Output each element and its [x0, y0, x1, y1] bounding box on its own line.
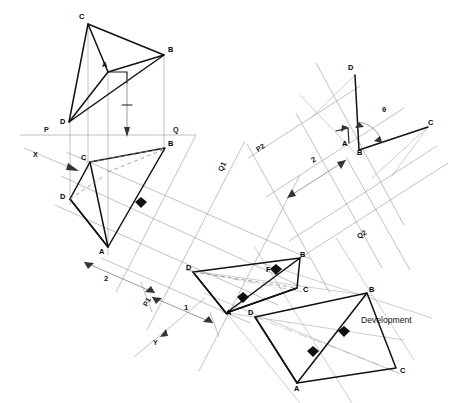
dimension-labels: 2 1 2 [104, 155, 318, 312]
aux-view-edge-da [193, 272, 226, 313]
rail-q1-c [55, 205, 278, 305]
edge-marker-top-view [135, 197, 147, 208]
dim-arrow-2-right-end [337, 160, 346, 169]
angle-theta-label: θ [382, 105, 386, 114]
label-dev-d: D [248, 308, 254, 317]
front-view-edges-cdb [69, 24, 164, 122]
development-edge-da [255, 317, 297, 383]
axis-x-arrowhead [66, 163, 79, 171]
label-p: P [44, 125, 49, 134]
line-q2 [346, 157, 410, 270]
auxiliary-view [193, 258, 300, 313]
feeler-angle-3 [392, 127, 428, 176]
dim-arrow-2-right-start [287, 189, 296, 198]
label-aux-b: B [300, 250, 305, 259]
angle-arc-arrowhead-2 [374, 136, 382, 143]
front-view-edge-da [69, 72, 108, 122]
label-front-d: D [60, 117, 66, 126]
top-view-face-cba [90, 148, 165, 247]
label-top-b: B [168, 139, 173, 148]
label-aux-c: C [303, 285, 309, 294]
label-angle-a: A [342, 139, 348, 148]
label-x: X [33, 150, 38, 159]
aux-view-edge-ac [226, 288, 297, 313]
aux-view-edges-bda [193, 258, 300, 313]
dim-value-2-left: 2 [104, 274, 108, 283]
label-aux-f: F [266, 265, 271, 274]
feeler-angle-1 [300, 95, 357, 155]
label-angle-c: C [428, 118, 434, 127]
label-aux-d: D [186, 263, 192, 272]
dim-value-1-left: 1 [184, 303, 189, 312]
rail-p2-d [300, 163, 448, 258]
development-annotation: Development [361, 315, 412, 325]
drawing-sheet: C B A D B C D A B F C D E A D A B C D C … [0, 0, 459, 403]
label-dev-c: C [400, 366, 406, 375]
dimension-lines [84, 160, 346, 337]
line-q1 [147, 141, 245, 330]
height-dimension-arrowhead [124, 127, 130, 137]
label-front-c: C [79, 12, 85, 21]
label-aux-a: A [226, 308, 232, 317]
construction-lines [20, 24, 448, 403]
label-q2: Q2 [355, 228, 368, 241]
line-oblique-2 [199, 175, 300, 371]
label-dev-a: A [294, 384, 300, 393]
dim-value-2-right: 2 [309, 155, 317, 165]
dim-extension-y [210, 312, 219, 337]
line-aux-cross-1 [316, 63, 404, 225]
label-p1: P1 [141, 296, 153, 308]
top-view [70, 148, 165, 247]
development-view [255, 293, 396, 383]
engineering-drawing-canvas: C B A D B C D A B F C D E A D A B C D C … [0, 0, 459, 403]
label-angle-d: D [348, 63, 354, 72]
rail-dev-c [204, 293, 400, 374]
rail-q1-a [66, 152, 310, 259]
label-top-a: A [99, 247, 105, 256]
feeler-angle-2 [372, 127, 428, 178]
dim-line-2-left [84, 262, 155, 293]
label-aux-e: E [240, 294, 245, 303]
front-view-face-abc [88, 24, 164, 72]
front-view [69, 24, 164, 137]
label-front-b: B [168, 45, 173, 54]
label-y: Y [153, 338, 158, 347]
label-top-d: D [60, 192, 66, 201]
dim-line-2-right [287, 160, 346, 198]
aux-view-hidden-dc [193, 272, 297, 288]
axis-y-arrowhead [160, 329, 168, 337]
front-view-right-angle-mark [108, 72, 127, 83]
top-view-hidden-dk [70, 176, 104, 199]
line-p2-cross [247, 144, 330, 293]
label-front-a: A [102, 60, 108, 69]
dim-line-1-left [152, 297, 213, 323]
feeler-angle-4 [311, 75, 355, 118]
label-q: Q [173, 125, 179, 134]
label-angle-b: B [357, 148, 362, 157]
label-top-c: C [81, 153, 87, 162]
label-q1: Q1 [216, 160, 228, 173]
top-view-hidden-ib [108, 149, 165, 172]
label-p2: P2 [254, 141, 266, 153]
label-dev-b: B [369, 285, 374, 294]
top-view-edges-cda [70, 162, 108, 247]
development-outline [255, 293, 396, 383]
